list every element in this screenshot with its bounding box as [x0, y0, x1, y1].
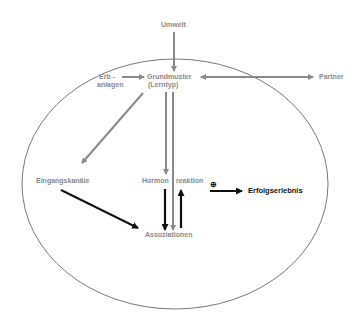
diagram-canvas — [0, 0, 364, 327]
label-anlagen: anlagen — [97, 81, 123, 89]
label-hormon: Hormon — [142, 177, 169, 185]
label-assoziationen: Assoziationen — [145, 231, 192, 239]
label-umwelt: Umwelt — [161, 21, 186, 29]
arrow-grundmuster-eingangskanaele — [82, 93, 143, 163]
label-partner: Partner — [319, 73, 344, 81]
label-lerntyp: (Lerntyp) — [148, 81, 178, 89]
arrow-eingangskanaele-assoziationen — [61, 190, 138, 228]
label-grundmuster: Grundmuster — [147, 73, 191, 81]
label-erfolgserlebnis: Erfolgserlebnis — [248, 187, 303, 195]
plus-icon: ⊕ — [210, 181, 217, 189]
label-eingangskanaele: Eingangskanäle — [36, 177, 89, 185]
label-erb: Erb - — [99, 73, 115, 81]
label-reaktion: reaktion — [176, 177, 203, 185]
